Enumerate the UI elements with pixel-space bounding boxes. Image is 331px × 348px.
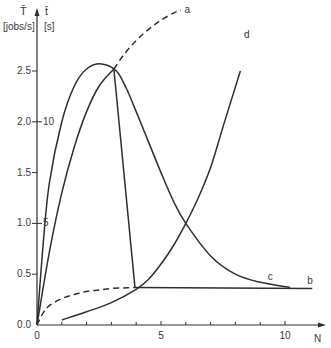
- x-tick-label: 5: [158, 331, 164, 341]
- y-axis-right-unit: [s]: [44, 22, 55, 32]
- curves: abcd: [37, 4, 313, 325]
- line-chart: abcd: [0, 0, 331, 348]
- x-tick-label: 0: [34, 331, 40, 341]
- curve-label-d: d: [244, 29, 250, 40]
- curve-b-solid: [135, 287, 312, 288]
- y-axis-right-symbol: t̄: [45, 6, 48, 17]
- y-tick-label-right: 5: [43, 218, 49, 228]
- axes: [32, 8, 326, 328]
- y-tick-label-left: 0.5: [17, 269, 31, 279]
- curve-label-b: b: [307, 275, 313, 286]
- curve-a-solid: [37, 69, 114, 325]
- y-tick-label-left: 1.5: [17, 168, 31, 178]
- y-tick-label-right: 10: [43, 117, 54, 127]
- y-tick-label-left: 2.5: [17, 66, 31, 76]
- y-axis-arrow-icon: [35, 8, 40, 16]
- y-axis-left-unit: [jobs/s]: [3, 22, 35, 32]
- x-axis-label: N: [314, 334, 321, 344]
- x-axis-arrow-icon: [318, 323, 326, 328]
- y-axis-left-symbol: T̄: [20, 6, 27, 17]
- curve-b-dashed: [37, 287, 135, 325]
- curve-a-dashed: [114, 10, 181, 69]
- y-tick-label-left: 2.0: [17, 117, 31, 127]
- y-tick-label-left: 0.0: [17, 320, 31, 330]
- curve-label-c: c: [268, 271, 273, 282]
- curve-c: [37, 64, 290, 325]
- x-tick-label: 10: [279, 331, 290, 341]
- y-tick-label-left: 1.0: [17, 218, 31, 228]
- curve-label-a: a: [185, 4, 191, 15]
